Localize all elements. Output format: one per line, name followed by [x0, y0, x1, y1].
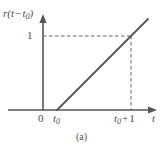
y-axis-arrowhead — [39, 14, 46, 23]
ramp-curve — [57, 19, 148, 110]
x-tick-t0-sub: 0 — [56, 117, 60, 126]
plot-area — [0, 0, 163, 150]
ramp-function-figure: r(t−t0) 1 0 t0 t0+1 t (a) — [0, 0, 163, 150]
y-tick-label-one: 1 — [27, 30, 33, 41]
x-tick-t0plus1-one: 1 — [129, 112, 135, 124]
y-axis-label-prefix: r(t — [3, 7, 14, 19]
y-axis-label-suffix: ) — [30, 7, 34, 19]
x-axis-label: t — [152, 113, 155, 124]
x-tick-label-t0-plus-1: t0+1 — [114, 113, 135, 126]
x-tick-label-zero: 0 — [38, 113, 44, 124]
y-axis-label: r(t−t0) — [3, 8, 33, 21]
x-tick-label-t0: t0 — [53, 113, 60, 126]
figure-caption: (a) — [0, 131, 163, 142]
